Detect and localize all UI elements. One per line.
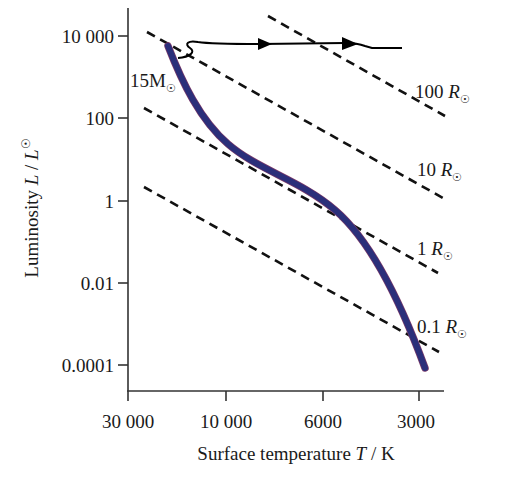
- y-tick-label: 1: [105, 191, 115, 212]
- y-tick-label: 0.01: [81, 273, 114, 294]
- main-sequence-curve: [168, 46, 425, 368]
- hr-diagram: 10 000 100 1 0.01 0.0001 30 000 10 000 6…: [0, 0, 506, 486]
- arrow-right-icon: [342, 37, 358, 50]
- radius-label-01: 0.1 R☉: [417, 316, 467, 340]
- x-tick-label: 30 000: [102, 411, 154, 432]
- radius-line-1: [144, 108, 438, 273]
- axes: [118, 8, 444, 401]
- radius-label-1: 1 R☉: [417, 238, 453, 262]
- evolution-track: [178, 41, 402, 58]
- radius-line-10: [147, 32, 443, 198]
- radius-label-100: 100 R☉: [415, 81, 470, 105]
- arrow-right-icon: [258, 38, 272, 50]
- main-sequence-curve-edge: [168, 46, 425, 368]
- x-axis-title: Surface temperature T / K: [197, 443, 395, 464]
- radius-label-10: 10 R☉: [417, 159, 462, 183]
- y-tick-label: 0.0001: [62, 355, 114, 376]
- y-axis-title: Luminosity L / L☉: [19, 138, 42, 277]
- mass-label: 15M☉: [130, 70, 176, 94]
- x-tick-label: 6000: [304, 411, 342, 432]
- radius-line-01: [144, 187, 439, 352]
- x-tick-label: 10 000: [200, 411, 252, 432]
- x-tick-label: 3000: [397, 411, 435, 432]
- y-tick-label: 10 000: [62, 26, 114, 47]
- y-tick-label: 100: [86, 108, 115, 129]
